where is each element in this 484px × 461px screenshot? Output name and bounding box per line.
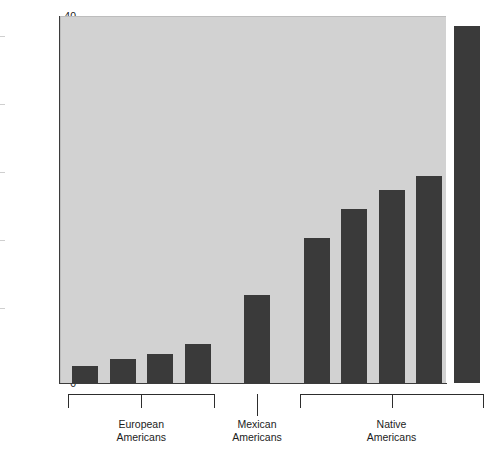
group-bracket-stem [141, 394, 142, 408]
group-bracket-stem [392, 394, 393, 408]
group-label: EuropeanAmericans [81, 418, 201, 443]
group-label-line2: Americans [197, 431, 317, 444]
group-label-line1: European [81, 418, 201, 431]
group-label: NativeAmericans [332, 418, 452, 443]
group-label: MexicanAmericans [197, 418, 317, 443]
group-bracket-stem [257, 394, 258, 416]
group-label-line1: Native [332, 418, 452, 431]
group-label-line2: Americans [332, 431, 452, 444]
group-label-line2: Americans [81, 431, 201, 444]
group-label-line1: Mexican [197, 418, 317, 431]
